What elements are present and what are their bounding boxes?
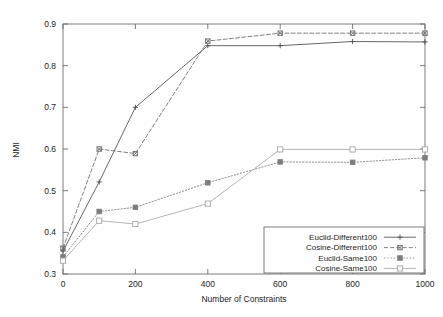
legend-item-label: Euclid-Different100	[309, 233, 377, 242]
marker-filled-square	[398, 256, 403, 261]
marker-filled-square	[350, 160, 355, 165]
marker-open-square	[133, 221, 138, 226]
marker-open-square	[350, 147, 355, 152]
marker-open-square	[97, 218, 102, 223]
data-point	[206, 180, 211, 185]
marker-filled-square	[278, 160, 283, 165]
legend-item-label: Euclid-Same100	[318, 254, 377, 263]
y-tick-label: 0.9	[44, 19, 56, 29]
data-point	[133, 221, 138, 226]
marker-filled-square	[133, 205, 138, 210]
data-point	[205, 201, 210, 206]
chart-canvas: 0.30.40.50.60.70.80.9 02004006008001000 …	[0, 0, 443, 317]
marker-open-square	[422, 147, 427, 152]
y-tick-label: 0.6	[44, 144, 56, 154]
marker-filled-square	[97, 209, 102, 214]
marker-open-square	[60, 258, 65, 263]
y-tick-label: 0.5	[44, 186, 56, 196]
data-point	[397, 266, 402, 271]
data-point	[423, 155, 428, 160]
x-tick-label: 1000	[416, 279, 435, 289]
x-tick-label: 200	[128, 279, 142, 289]
x-axis-label: Number of Constraints	[201, 294, 286, 304]
y-tick-label: 0.3	[44, 269, 56, 279]
legend-item-label: Cosine-Same100	[315, 264, 377, 273]
y-tick-label: 0.7	[44, 102, 56, 112]
data-point	[350, 160, 355, 165]
data-point	[278, 147, 283, 152]
y-axis-label: NMI	[11, 142, 21, 158]
marker-open-square	[278, 147, 283, 152]
x-tick-label: 600	[273, 279, 287, 289]
data-point	[350, 147, 355, 152]
data-point	[97, 209, 102, 214]
marker-filled-square	[206, 180, 211, 185]
marker-open-square	[397, 266, 402, 271]
data-point	[398, 256, 403, 261]
data-point	[60, 258, 65, 263]
legend: Euclid-Different100Cosine-Different100Eu…	[264, 227, 424, 273]
marker-open-square	[205, 201, 210, 206]
x-tick-label: 400	[201, 279, 215, 289]
data-point	[97, 218, 102, 223]
x-tick-label: 800	[346, 279, 360, 289]
y-tick-label: 0.4	[44, 227, 56, 237]
legend-item-label: Cosine-Different100	[306, 243, 378, 252]
x-tick-label: 0	[61, 279, 66, 289]
chart-figure: 0.30.40.50.60.70.80.9 02004006008001000 …	[0, 0, 443, 317]
marker-filled-square	[423, 155, 428, 160]
data-point	[278, 160, 283, 165]
data-point	[133, 205, 138, 210]
data-point	[422, 147, 427, 152]
y-tick-label: 0.8	[44, 61, 56, 71]
